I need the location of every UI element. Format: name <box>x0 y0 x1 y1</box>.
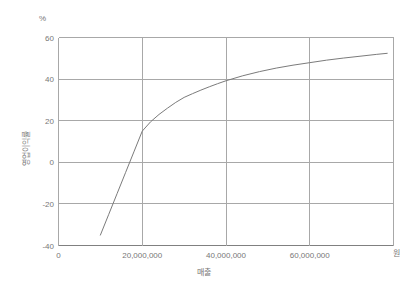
series-line-0 <box>100 53 387 235</box>
data-series-layer <box>100 53 387 235</box>
chart-container: % 원 영업이익률 매출 -40-200204060 020,000,00040… <box>0 0 408 297</box>
plot-area <box>0 0 408 297</box>
vertical-gridlines <box>142 38 310 246</box>
